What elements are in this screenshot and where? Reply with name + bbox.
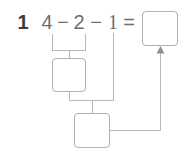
step1-box-to-junction (69, 92, 113, 101)
problem-number-label: 1 (15, 11, 31, 33)
expression-minus-operator-2: − (89, 11, 103, 33)
expression-equals-sign: = (121, 11, 137, 33)
first-step-answer-box[interactable] (52, 58, 86, 92)
result-answer-box[interactable] (142, 11, 178, 46)
bracket-operand-a-to-step1 (53, 34, 86, 51)
step2-box-to-result-arrow (110, 52, 161, 131)
expression-minus-operator-1: − (56, 11, 70, 33)
second-step-answer-box[interactable] (74, 113, 110, 148)
expression-operand-a: 4 (40, 11, 54, 33)
expression-operand-b: 2 (72, 11, 86, 33)
worksheet-problem-canvas: 1 4 − 2 − 1 = (0, 0, 187, 156)
arrow-head-to-result-box (157, 46, 165, 54)
expression-operand-c: 1 (106, 11, 120, 33)
